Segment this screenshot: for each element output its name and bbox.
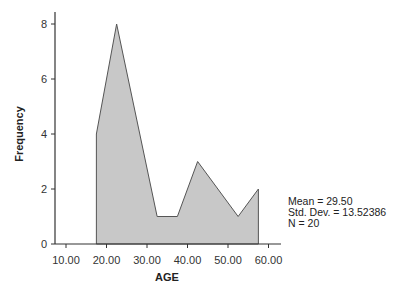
y-tick-label: 0 (41, 238, 47, 250)
frequency-area (96, 24, 258, 244)
x-tick-label: 30.00 (133, 254, 161, 266)
frequency-polygon-chart: 0246810.0020.0030.0040.0050.0060.00AGEFr… (0, 0, 405, 298)
y-tick-label: 8 (41, 18, 47, 30)
x-tick-label: 20.00 (93, 254, 121, 266)
y-tick-label: 4 (41, 128, 47, 140)
n-label: N = 20 (288, 218, 386, 229)
summary-statistics: Mean = 29.50 Std. Dev. = 13.52386 N = 20 (288, 196, 386, 229)
x-tick-label: 60.00 (255, 254, 283, 266)
y-axis-label: Frequency (13, 105, 25, 162)
y-tick-label: 2 (41, 183, 47, 195)
x-tick-label: 50.00 (214, 254, 242, 266)
x-axis-label: AGE (155, 271, 179, 283)
y-tick-label: 6 (41, 73, 47, 85)
x-tick-label: 10.00 (52, 254, 80, 266)
x-tick-label: 40.00 (174, 254, 202, 266)
